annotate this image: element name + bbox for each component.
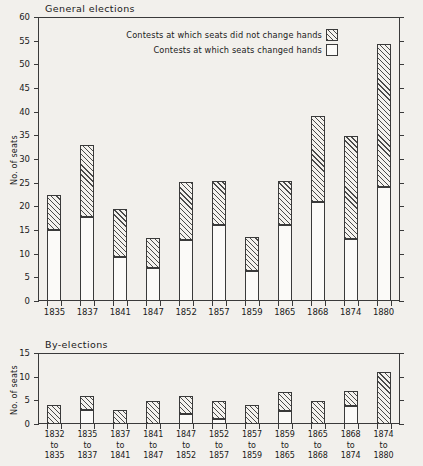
stacked-bar xyxy=(146,401,160,424)
x-axis-tick xyxy=(146,424,147,429)
figure: General elections No. of seats 051015202… xyxy=(0,0,423,466)
bar-segment-changed-hands xyxy=(212,225,226,301)
x-axis-tick-label: 1852 xyxy=(170,307,203,317)
bar-segment-changed-hands xyxy=(212,419,226,424)
y-axis-tick-label: 15 xyxy=(4,348,30,358)
x-axis-tick xyxy=(377,301,378,306)
x-axis-tick-label: 1857to1859 xyxy=(235,430,268,462)
stacked-bar xyxy=(344,391,358,424)
x-axis-tick xyxy=(212,424,213,429)
x-axis-tick-label: 1835 xyxy=(38,307,71,317)
y-axis-tick-right xyxy=(399,301,404,302)
x-axis-tick xyxy=(113,301,114,306)
y-axis-tick-label: 5 xyxy=(4,272,30,282)
bar-segment-not-changed-hands xyxy=(179,396,193,414)
x-axis-tick xyxy=(61,301,62,306)
bar-segment-changed-hands xyxy=(278,225,292,301)
y-axis-tick-right xyxy=(399,159,404,160)
bar-segment-not-changed-hands xyxy=(80,396,94,410)
legend-item: Contests at which seats changed hands xyxy=(38,44,338,56)
x-axis-tick-label: 1847 xyxy=(137,307,170,317)
bar-segment-not-changed-hands xyxy=(113,209,127,258)
x-axis-tick xyxy=(179,424,180,429)
x-axis-tick-label: 1841 xyxy=(104,307,137,317)
y-axis-tick xyxy=(34,112,39,113)
bar-segment-not-changed-hands xyxy=(47,195,61,231)
bar-segment-changed-hands xyxy=(47,230,61,301)
x-axis-tick xyxy=(391,301,392,306)
legend-item: Contests at which seats did not change h… xyxy=(38,29,338,41)
stacked-bar xyxy=(80,396,94,424)
bar-segment-not-changed-hands xyxy=(344,136,358,239)
y-axis-tick xyxy=(34,254,39,255)
bar-segment-not-changed-hands xyxy=(344,391,358,406)
bar-segment-not-changed-hands xyxy=(113,410,127,424)
y-axis-tick-right xyxy=(399,277,404,278)
bar-segment-not-changed-hands xyxy=(212,401,226,419)
y-axis-tick xyxy=(34,424,39,425)
bar-segment-not-changed-hands xyxy=(278,181,292,225)
stacked-bar xyxy=(377,44,391,301)
stacked-bar xyxy=(113,410,127,424)
x-axis-tick xyxy=(47,301,48,306)
x-axis-tick xyxy=(226,301,227,306)
legend-key-open xyxy=(326,44,338,56)
bar-segment-changed-hands xyxy=(311,202,325,301)
bar-segment-not-changed-hands xyxy=(311,401,325,424)
x-axis-tick-label: 1880 xyxy=(367,307,400,317)
x-axis-tick-label: 1859 xyxy=(235,307,268,317)
y-axis-tick-label: 15 xyxy=(4,225,30,235)
y-axis-tick-label: 50 xyxy=(4,59,30,69)
x-axis-tick xyxy=(80,424,81,429)
bar-segment-not-changed-hands xyxy=(212,181,226,225)
y-axis-tick xyxy=(34,17,39,18)
bar-segment-changed-hands xyxy=(113,257,127,301)
y-axis-tick xyxy=(34,277,39,278)
x-axis-tick xyxy=(391,424,392,429)
bar-segment-changed-hands xyxy=(344,239,358,301)
stacked-bar xyxy=(245,237,259,301)
y-axis-tick-label: 60 xyxy=(4,12,30,22)
stacked-bar xyxy=(179,182,193,301)
bar-segment-not-changed-hands xyxy=(80,145,94,217)
x-axis-tick xyxy=(358,424,359,429)
x-axis-tick xyxy=(212,301,213,306)
y-axis-tick-label: 10 xyxy=(4,372,30,382)
y-axis-tick-right xyxy=(399,112,404,113)
x-axis-tick xyxy=(179,301,180,306)
x-axis-tick xyxy=(160,424,161,429)
stacked-bar xyxy=(47,405,61,424)
y-axis-tick xyxy=(34,159,39,160)
x-axis-tick xyxy=(325,424,326,429)
bar-segment-changed-hands xyxy=(278,411,292,424)
y-axis-tick-right xyxy=(399,88,404,89)
stacked-bar xyxy=(179,396,193,424)
y-axis-tick xyxy=(34,206,39,207)
by-elections-title: By-elections xyxy=(45,339,108,350)
legend-key-hatched xyxy=(326,29,338,41)
legend-label: Contests at which seats did not change h… xyxy=(126,30,322,40)
y-axis-tick-label: 35 xyxy=(4,130,30,140)
y-axis-tick-label: 30 xyxy=(4,154,30,164)
bar-segment-changed-hands xyxy=(344,406,358,424)
y-axis-tick-right xyxy=(399,353,404,354)
y-axis-tick xyxy=(34,64,39,65)
y-axis-tick-label: 5 xyxy=(4,395,30,405)
y-axis-tick xyxy=(34,135,39,136)
x-axis-tick xyxy=(259,301,260,306)
y-axis-tick-right xyxy=(399,17,404,18)
bar-segment-changed-hands xyxy=(245,271,259,301)
bar-segment-changed-hands xyxy=(179,240,193,301)
x-axis-tick-label: 1837 xyxy=(71,307,104,317)
y-axis-tick-right xyxy=(399,254,404,255)
x-axis-tick xyxy=(245,301,246,306)
y-axis-tick-right xyxy=(399,206,404,207)
x-axis-tick xyxy=(292,301,293,306)
x-axis-tick-label: 1859to1865 xyxy=(268,430,301,462)
stacked-bar xyxy=(377,372,391,424)
y-axis-tick-label: 10 xyxy=(4,249,30,259)
bar-segment-not-changed-hands xyxy=(245,405,259,424)
stacked-bar xyxy=(311,401,325,424)
x-axis-tick xyxy=(61,424,62,429)
x-axis-tick-label: 1874 xyxy=(334,307,367,317)
